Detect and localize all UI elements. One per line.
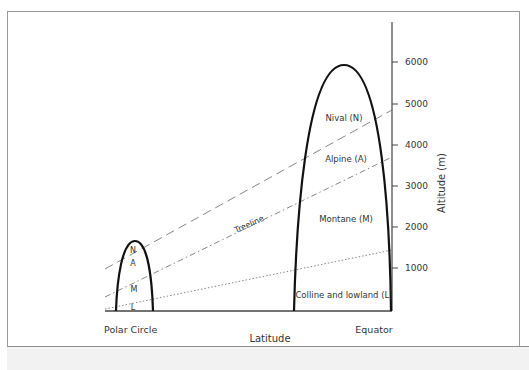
tick-label-3000: 3000 (405, 181, 428, 191)
equator-zone-alpine: Alpine (A) (325, 154, 367, 164)
polar-zone-alpine: A (130, 259, 136, 268)
tick-label-1000: 1000 (405, 263, 428, 273)
equator-zone-nival: Nival (N) (325, 113, 362, 123)
polar-zone-montane: M (131, 285, 138, 294)
tick-label-4000: 4000 (405, 140, 428, 150)
y-axis-label: Altitude (m) (436, 153, 447, 213)
y-axis-ticks (392, 62, 398, 268)
nival-boundary-line (105, 110, 392, 269)
x-label-equator: Equator (355, 324, 392, 335)
tick-label-2000: 2000 (405, 222, 428, 232)
equator-zone-montane: Montane (M) (319, 214, 373, 224)
treeline-label: Treeline (232, 214, 265, 235)
x-axis-label: Latitude (249, 333, 290, 344)
tick-label-6000: 6000 (405, 57, 428, 67)
polar-zone-nival: N (130, 246, 136, 255)
x-label-polar-circle: Polar Circle (104, 324, 157, 335)
tick-label-5000: 5000 (405, 99, 428, 109)
equator-mountain-outline (294, 65, 391, 311)
polar-zone-lowland: L (131, 303, 136, 312)
equator-zone-lowland: Colline and lowland (L) (295, 290, 392, 300)
